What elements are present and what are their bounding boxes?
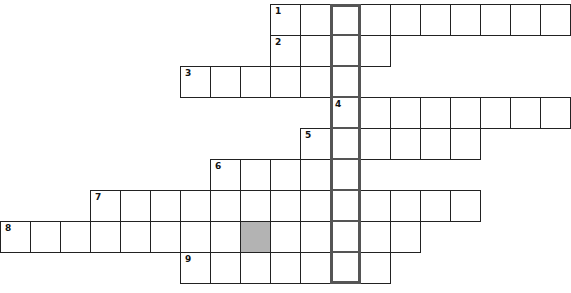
- crossword-cell[interactable]: 1: [270, 4, 301, 36]
- crossword-cell[interactable]: [300, 190, 331, 222]
- clue-number: 5: [305, 130, 311, 141]
- crossword-cell[interactable]: 8: [0, 221, 31, 253]
- crossword-cell[interactable]: [150, 190, 181, 222]
- crossword-cell[interactable]: [540, 97, 571, 129]
- crossword-cell[interactable]: [300, 66, 331, 98]
- crossword-cell[interactable]: [210, 221, 241, 253]
- clue-number: 7: [95, 192, 101, 203]
- crossword-cell[interactable]: [270, 190, 301, 222]
- crossword-cell[interactable]: [30, 221, 61, 253]
- crossword-cell[interactable]: [330, 4, 361, 36]
- crossword-cell[interactable]: [120, 190, 151, 222]
- crossword-cell[interactable]: [450, 128, 481, 160]
- crossword-cell[interactable]: [180, 190, 211, 222]
- crossword-cell[interactable]: [210, 252, 241, 284]
- crossword-cell[interactable]: [60, 221, 91, 253]
- crossword-cell[interactable]: [330, 190, 361, 222]
- clue-number: 9: [185, 254, 191, 265]
- crossword-cell[interactable]: [480, 4, 511, 36]
- crossword-cell[interactable]: [90, 221, 121, 253]
- crossword-cell[interactable]: [330, 128, 361, 160]
- crossword-cell[interactable]: [300, 35, 331, 67]
- crossword-cell[interactable]: [210, 66, 241, 98]
- crossword-cell[interactable]: [240, 252, 271, 284]
- clue-number: 3: [185, 68, 191, 79]
- crossword-cell[interactable]: [510, 4, 541, 36]
- key-column-divider: [330, 127, 361, 129]
- crossword-cell[interactable]: [390, 128, 421, 160]
- crossword-cell[interactable]: [390, 4, 421, 36]
- crossword-cell[interactable]: [390, 221, 421, 253]
- crossword-cell[interactable]: [480, 97, 511, 129]
- crossword-cell[interactable]: [360, 4, 391, 36]
- crossword-cell[interactable]: [330, 159, 361, 191]
- clue-number: 6: [215, 161, 221, 172]
- key-column-divider: [330, 158, 361, 160]
- crossword-cell[interactable]: [390, 190, 421, 222]
- clue-number: 8: [5, 223, 11, 234]
- crossword-cell[interactable]: [270, 252, 301, 284]
- crossword-cell[interactable]: [270, 221, 301, 253]
- key-column-divider: [330, 65, 361, 67]
- crossword-cell[interactable]: 4: [330, 97, 361, 129]
- crossword-cell[interactable]: [150, 221, 181, 253]
- crossword-cell[interactable]: [240, 159, 271, 191]
- crossword-cell[interactable]: [450, 4, 481, 36]
- crossword-cell[interactable]: 6: [210, 159, 241, 191]
- crossword-cell[interactable]: [420, 4, 451, 36]
- crossword-cell[interactable]: [360, 35, 391, 67]
- crossword-cell[interactable]: [360, 221, 391, 253]
- crossword-cell[interactable]: [360, 190, 391, 222]
- crossword-cell[interactable]: [360, 97, 391, 129]
- crossword-cell[interactable]: [270, 66, 301, 98]
- key-column-divider: [330, 34, 361, 36]
- key-column-divider: [330, 220, 361, 222]
- crossword-cell[interactable]: 9: [180, 252, 211, 284]
- crossword-cell[interactable]: [540, 4, 571, 36]
- crossword-cell[interactable]: [300, 221, 331, 253]
- crossword-cell[interactable]: [390, 97, 421, 129]
- clue-number: 4: [335, 99, 341, 110]
- crossword-cell[interactable]: [420, 97, 451, 129]
- clue-number: 1: [275, 6, 281, 17]
- crossword-cell[interactable]: [180, 221, 211, 253]
- crossword-cell[interactable]: [330, 35, 361, 67]
- crossword-cell[interactable]: [330, 66, 361, 98]
- crossword-cell[interactable]: [240, 221, 271, 253]
- crossword-cell[interactable]: [240, 190, 271, 222]
- clue-number: 2: [275, 37, 281, 48]
- crossword-cell[interactable]: [240, 66, 271, 98]
- key-column-divider: [330, 251, 361, 253]
- crossword-cell[interactable]: [120, 221, 151, 253]
- crossword-cell[interactable]: [300, 252, 331, 284]
- crossword-cell[interactable]: [360, 128, 391, 160]
- crossword-cell[interactable]: 7: [90, 190, 121, 222]
- key-column-divider: [330, 96, 361, 98]
- crossword-cell[interactable]: [270, 159, 301, 191]
- crossword-cell[interactable]: [330, 221, 361, 253]
- key-column-divider: [330, 189, 361, 191]
- crossword-cell[interactable]: [450, 97, 481, 129]
- crossword-cell[interactable]: 5: [300, 128, 331, 160]
- crossword-cell[interactable]: [300, 4, 331, 36]
- crossword-cell[interactable]: [360, 252, 391, 284]
- crossword-cell[interactable]: [420, 128, 451, 160]
- crossword-cell[interactable]: 3: [180, 66, 211, 98]
- crossword-cell[interactable]: [210, 190, 241, 222]
- crossword-cell[interactable]: [330, 252, 361, 284]
- crossword-cell[interactable]: [420, 190, 451, 222]
- crossword-cell[interactable]: [300, 159, 331, 191]
- crossword-cell[interactable]: 2: [270, 35, 301, 67]
- crossword-cell[interactable]: [450, 190, 481, 222]
- crossword-cell[interactable]: [510, 97, 541, 129]
